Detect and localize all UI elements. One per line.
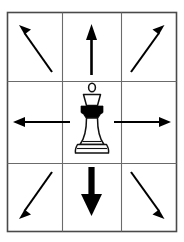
cell-middle-right[interactable] <box>114 82 177 164</box>
cell-center[interactable] <box>63 82 122 164</box>
cell-bottom-left[interactable] <box>8 164 63 232</box>
cell-top-left[interactable] <box>8 13 63 82</box>
cell-top-right[interactable] <box>122 13 177 82</box>
cell-middle-left[interactable] <box>8 82 71 164</box>
cell-bottom-right[interactable] <box>122 164 177 232</box>
cell-top-center[interactable] <box>63 13 122 82</box>
queen-movement-diagram <box>0 0 184 242</box>
chess-grid-board <box>0 0 184 242</box>
cell-bottom-center[interactable] <box>63 164 122 232</box>
